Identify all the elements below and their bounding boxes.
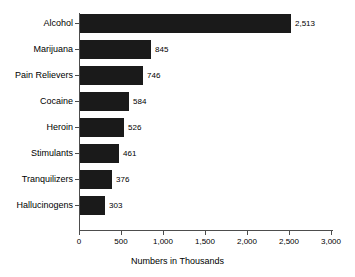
category-label: Pain Relievers: [0, 66, 73, 85]
y-axis-tick: [75, 179, 79, 180]
x-axis-title: Numbers in Thousands: [0, 255, 355, 267]
bar-value-label: 845: [155, 40, 168, 59]
x-axis-tick-label: 1,500: [195, 237, 215, 247]
bar-value-label: 461: [123, 144, 136, 163]
category-label: Cocaine: [0, 92, 73, 111]
x-axis-tick: [79, 231, 80, 235]
bar: [80, 196, 105, 215]
x-axis-tick: [205, 231, 206, 235]
bar-value-label: 584: [133, 92, 146, 111]
bar: [80, 92, 129, 111]
x-axis-tick: [289, 231, 290, 235]
bar-chart: Alcohol 2,513 Marijuana 845 Pain Relieve…: [0, 0, 355, 277]
x-axis-tick: [163, 231, 164, 235]
x-axis-line: [79, 230, 333, 231]
y-axis-tick: [75, 75, 79, 76]
category-label: Alcohol: [0, 14, 73, 33]
x-axis-tick-label: 500: [114, 237, 127, 247]
bar-value-label: 303: [109, 196, 122, 215]
y-axis-tick: [75, 205, 79, 206]
bar: [80, 144, 119, 163]
y-axis-tick: [75, 23, 79, 24]
bar: [80, 170, 112, 189]
category-label: Stimulants: [0, 144, 73, 163]
x-axis-tick-label: 2,000: [237, 237, 257, 247]
bar-value-label: 376: [116, 170, 129, 189]
y-axis-tick: [75, 101, 79, 102]
category-label: Tranquilizers: [0, 170, 73, 189]
bar: [80, 40, 151, 59]
category-label: Marijuana: [0, 40, 73, 59]
category-label: Hallucinogens: [0, 196, 73, 215]
bar: [80, 118, 124, 137]
category-label: Heroin: [0, 118, 73, 137]
x-axis-tick-label: 1,000: [153, 237, 173, 247]
x-axis-tick-label: 2,500: [279, 237, 299, 247]
x-axis-tick: [331, 231, 332, 235]
y-axis-tick: [75, 49, 79, 50]
bar-value-label: 2,513: [295, 14, 315, 33]
x-axis-tick-label: 3,000: [321, 237, 341, 247]
bar-value-label: 526: [128, 118, 141, 137]
plot-area: Alcohol 2,513 Marijuana 845 Pain Relieve…: [0, 0, 355, 277]
y-axis-tick: [75, 127, 79, 128]
x-axis-tick: [247, 231, 248, 235]
y-axis-tick: [75, 153, 79, 154]
bar: [80, 14, 291, 33]
x-axis-tick: [121, 231, 122, 235]
x-axis-tick-label: 0: [77, 237, 81, 247]
bar-value-label: 746: [147, 66, 160, 85]
bar: [80, 66, 143, 85]
